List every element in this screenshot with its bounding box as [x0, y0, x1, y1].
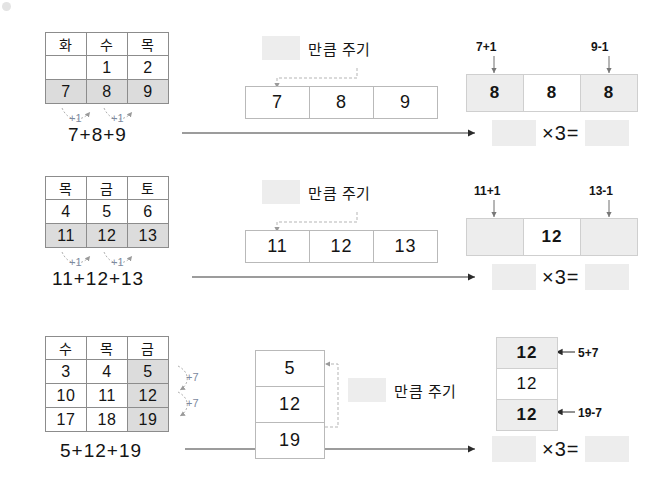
strip-cell: 8	[310, 87, 374, 118]
date-cell-highlighted: 12	[87, 224, 128, 248]
strip-cell: 12	[310, 231, 374, 262]
result-strip-3: 12 12 12	[496, 337, 558, 431]
result-note-left-2: 11+1	[474, 184, 500, 198]
number-strip-3: 5 12 19	[255, 350, 325, 459]
day-header: 금	[87, 177, 128, 200]
calendar-table-2: 목 금 토 4 5 6 11 12 13	[45, 176, 169, 248]
day-header: 화	[46, 33, 87, 56]
result-cell[interactable]: 12	[497, 400, 557, 430]
table-row: 1 2	[46, 56, 169, 80]
step-note-text: +1	[111, 256, 124, 268]
result-note-bottom-3: 19-7	[578, 406, 602, 420]
equation-operator: ×3=	[536, 266, 585, 289]
result-note-right-1: 9-1	[591, 40, 608, 54]
result-note-text: 11+1	[474, 184, 500, 198]
equation-2: ×3=	[492, 264, 629, 290]
step-note-text: +7	[186, 371, 199, 383]
strip-cell: 5	[256, 351, 324, 387]
step-note-right: +1	[111, 256, 124, 268]
equation-3: ×3=	[492, 436, 629, 462]
result-cell[interactable]: 8	[581, 75, 637, 111]
give-label-text: 만큼 주기	[308, 182, 371, 203]
date-cell	[46, 56, 87, 80]
strip-cell: 19	[256, 423, 324, 458]
number-strip-2: 11 12 13	[245, 230, 438, 263]
result-note-top-3: 5+7	[578, 346, 598, 360]
step-note-text: +1	[69, 256, 82, 268]
sum-expression-2: 11+12+13	[52, 268, 144, 290]
date-cell: 3	[46, 360, 87, 384]
answer-blank-left[interactable]	[492, 436, 536, 462]
date-cell: 10	[46, 384, 87, 408]
corner-marker-dot	[2, 2, 11, 11]
result-note-text: 5+7	[578, 346, 598, 360]
step-note-left: +1	[69, 256, 82, 268]
result-note-left-1: 7+1	[476, 40, 496, 54]
date-cell-highlighted: 8	[87, 80, 128, 104]
date-cell: 11	[87, 384, 128, 408]
step-note-text: +7	[186, 397, 199, 409]
result-cell-blank[interactable]	[467, 219, 524, 255]
number-strip-1: 7 8 9	[245, 86, 438, 119]
day-header: 목	[128, 33, 169, 56]
answer-blank-left[interactable]	[492, 264, 536, 290]
table-row-highlighted: 7 8 9	[46, 80, 169, 104]
give-label-text: 만큼 주기	[308, 38, 371, 59]
strip-cell: 9	[374, 87, 437, 118]
strip-cell: 12	[256, 387, 324, 423]
answer-blank-box[interactable]	[348, 378, 386, 402]
step-note-lower: +7	[186, 397, 199, 409]
result-cell[interactable]: 12	[497, 338, 557, 369]
result-cell-blank[interactable]	[581, 219, 637, 255]
result-note-text: 13-1	[589, 184, 613, 198]
answer-blank-left[interactable]	[492, 120, 536, 146]
result-strip-2: 12	[466, 218, 638, 256]
step-note-text: +1	[69, 112, 82, 124]
worksheet-canvas: 화 수 목 1 2 7 8 9 +1 +	[0, 0, 656, 477]
date-cell: 4	[46, 200, 87, 224]
sum-expression-3: 5+12+19	[60, 440, 142, 462]
table-row-highlighted: 11 12 13	[46, 224, 169, 248]
result-note-text: 7+1	[476, 40, 496, 54]
result-cell: 12	[497, 369, 557, 400]
table-row: 10 11 12	[46, 384, 169, 408]
result-cell: 8	[524, 75, 581, 111]
table-header-row: 목 금 토	[46, 177, 169, 200]
give-label-text: 만큼 주기	[394, 380, 457, 401]
date-cell-highlighted: 5	[128, 360, 169, 384]
calendar-table-3: 수 목 금 3 4 5 10 11 12 17 18	[45, 336, 169, 432]
result-strip-1: 8 8 8	[466, 74, 638, 112]
date-cell: 2	[128, 56, 169, 80]
answer-blank-box[interactable]	[262, 180, 300, 204]
date-cell: 5	[87, 200, 128, 224]
day-header: 목	[46, 177, 87, 200]
step-note-upper: +7	[186, 371, 199, 383]
equation-operator: ×3=	[536, 122, 585, 145]
date-cell-highlighted: 19	[128, 408, 169, 432]
give-label-1: 만큼 주기	[262, 36, 371, 60]
answer-blank-right[interactable]	[585, 264, 629, 290]
day-header: 목	[87, 337, 128, 360]
date-cell: 6	[128, 200, 169, 224]
sum-expression-1: 7+8+9	[68, 124, 127, 146]
date-cell: 4	[87, 360, 128, 384]
date-cell: 17	[46, 408, 87, 432]
date-cell-highlighted: 11	[46, 224, 87, 248]
equation-1: ×3=	[492, 120, 629, 146]
table-header-row: 수 목 금	[46, 337, 169, 360]
day-header: 금	[128, 337, 169, 360]
date-cell-highlighted: 13	[128, 224, 169, 248]
answer-blank-right[interactable]	[585, 436, 629, 462]
give-label-2: 만큼 주기	[262, 180, 371, 204]
answer-blank-box[interactable]	[262, 36, 300, 60]
answer-blank-right[interactable]	[585, 120, 629, 146]
result-cell[interactable]: 8	[467, 75, 524, 111]
date-cell-highlighted: 9	[128, 80, 169, 104]
equation-operator: ×3=	[536, 438, 585, 461]
table-row: 4 5 6	[46, 200, 169, 224]
strip-cell: 11	[246, 231, 310, 262]
strip-cell: 13	[374, 231, 437, 262]
result-cell: 12	[524, 219, 581, 255]
date-cell-highlighted: 12	[128, 384, 169, 408]
result-note-text: 19-7	[578, 406, 602, 420]
